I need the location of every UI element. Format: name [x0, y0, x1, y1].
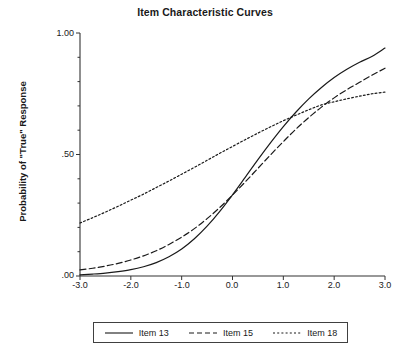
- curve-item-18: [80, 92, 385, 223]
- chart-figure: Item Characteristic Curves Probability o…: [0, 0, 410, 357]
- legend-label-item-13: Item 13: [139, 328, 169, 338]
- legend-swatch-dotted-icon: [272, 329, 302, 337]
- legend-label-item-15: Item 15: [223, 328, 253, 338]
- legend-item-item-15: Item 15: [188, 328, 253, 338]
- curve-item-15: [80, 68, 385, 270]
- legend-item-item-18: Item 18: [272, 328, 337, 338]
- legend-item-item-13: Item 13: [104, 328, 169, 338]
- chart-legend: Item 13 Item 15 Item 18: [93, 322, 348, 343]
- legend-label-item-18: Item 18: [307, 328, 337, 338]
- curve-item-13: [80, 48, 385, 275]
- data-curves: [80, 48, 385, 275]
- legend-swatch-dashed-icon: [188, 329, 218, 337]
- plot-area: [0, 0, 410, 357]
- y-axis-ticks: [76, 33, 80, 276]
- axes: [76, 33, 385, 280]
- x-axis-ticks: [80, 276, 385, 280]
- legend-swatch-solid-icon: [104, 329, 134, 337]
